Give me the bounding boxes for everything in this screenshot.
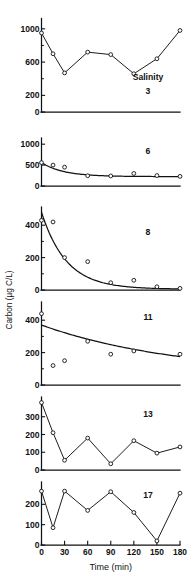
panel-11-salinity-value: 11 xyxy=(143,312,152,322)
data-point xyxy=(132,511,136,515)
panel-salinity-11: 020040011 xyxy=(25,302,182,390)
panel-salinity-6: 050010006 xyxy=(20,138,182,191)
panel-8-ytick-label: 200 xyxy=(25,253,40,263)
panel-3-ytick-label: 600 xyxy=(25,57,40,67)
data-point xyxy=(155,285,159,289)
panel-3-ytick-label: 0 xyxy=(35,107,40,117)
data-point xyxy=(109,281,113,285)
panel-13-ytick-label: 300 xyxy=(25,412,40,422)
panel-6-ytick-label: 1000 xyxy=(20,139,39,149)
panel-13-data-line xyxy=(42,403,181,464)
data-point xyxy=(40,218,44,222)
panel-13-salinity-value: 13 xyxy=(143,409,153,419)
data-point xyxy=(40,312,44,316)
data-point xyxy=(178,174,182,178)
data-point xyxy=(51,431,55,435)
panel-8-fit-curve xyxy=(42,212,181,289)
data-point xyxy=(51,526,55,530)
data-point xyxy=(132,439,136,443)
data-point xyxy=(86,436,90,440)
data-point xyxy=(40,161,44,165)
x-axis-tick-label: 30 xyxy=(60,547,70,557)
x-axis-tick-label: 90 xyxy=(106,547,116,557)
data-point xyxy=(86,339,90,343)
panel-11-ytick-label: 200 xyxy=(25,348,40,358)
data-point xyxy=(178,286,182,290)
panel-13-ytick-label: 200 xyxy=(25,430,40,440)
panel-13-ytick-label: 100 xyxy=(25,447,40,457)
data-point xyxy=(109,174,113,178)
data-point xyxy=(155,57,159,61)
panel-11-ytick-label: 400 xyxy=(25,315,40,325)
x-axis-tick-label: 120 xyxy=(127,547,141,557)
data-point xyxy=(155,451,159,455)
x-axis-label: Time (min) xyxy=(89,562,132,572)
panel-3-ytick-label: 1000 xyxy=(20,24,39,34)
data-point xyxy=(132,349,136,353)
data-point xyxy=(51,52,55,56)
data-point xyxy=(63,256,67,260)
panel-salinity-8: 02004008 xyxy=(25,207,182,295)
data-point xyxy=(63,71,67,75)
panel-8-ytick-label: 0 xyxy=(35,285,40,295)
data-point xyxy=(40,489,44,493)
panel-salinity-3: 02006001000Salinity3 xyxy=(20,19,182,118)
data-point xyxy=(132,172,136,176)
data-point xyxy=(63,489,67,493)
panel-3-salinity-label: Salinity xyxy=(133,72,164,82)
x-axis-tick-label: 0 xyxy=(39,547,44,557)
data-point xyxy=(51,220,55,224)
data-point xyxy=(109,490,113,494)
panel-17-ytick-label: 200 xyxy=(25,499,40,509)
panel-6-salinity-value: 6 xyxy=(146,146,151,156)
data-point xyxy=(86,50,90,54)
x-axis-tick-label: 180 xyxy=(173,547,187,557)
data-point xyxy=(155,539,159,543)
panel-6-ytick-label: 0 xyxy=(35,181,40,191)
figure-content: 02006001000Salinity305001000602004008020… xyxy=(5,19,187,573)
data-point xyxy=(63,359,67,363)
data-point xyxy=(40,31,44,35)
data-point xyxy=(40,401,44,405)
panel-salinity-13: 010020030013 xyxy=(25,397,182,475)
panel-3-salinity-value: 3 xyxy=(146,86,151,96)
x-axis-tick-label: 150 xyxy=(150,547,164,557)
panel-3-data-line xyxy=(42,30,181,73)
panel-11-ytick-label: 0 xyxy=(35,380,40,390)
data-point xyxy=(132,278,136,282)
data-point xyxy=(51,163,55,167)
data-point xyxy=(63,458,67,462)
panel-salinity-17: 0100200030609012015018017 xyxy=(25,482,187,557)
panel-6-ytick-label: 500 xyxy=(25,160,40,170)
data-point xyxy=(109,352,113,356)
panel-8-salinity-value: 8 xyxy=(146,227,151,237)
panel-17-data-line xyxy=(42,491,181,541)
data-point xyxy=(86,509,90,513)
data-point xyxy=(109,462,113,466)
panel-17-ytick-label: 100 xyxy=(25,520,40,530)
x-axis-tick-label: 60 xyxy=(83,547,93,557)
data-point xyxy=(86,174,90,178)
data-point xyxy=(178,491,182,495)
panel-3-ytick-label: 200 xyxy=(25,90,40,100)
data-point xyxy=(51,364,55,368)
data-point xyxy=(178,29,182,33)
data-point xyxy=(86,260,90,264)
panel-13-ytick-label: 0 xyxy=(35,465,40,475)
data-point xyxy=(155,174,159,178)
data-point xyxy=(178,445,182,449)
data-point xyxy=(109,53,113,57)
y-axis-label: Carbon (µg C/L) xyxy=(5,270,14,329)
panel-17-salinity-value: 17 xyxy=(143,490,153,500)
data-point xyxy=(178,352,182,356)
panel-8-ytick-label: 400 xyxy=(25,220,40,230)
carbon-vs-time-multipanel-figure: 02006001000Salinity305001000602004008020… xyxy=(0,0,188,587)
data-point xyxy=(63,165,67,169)
